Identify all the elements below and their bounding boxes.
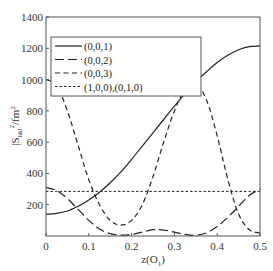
legend: (0,0,1)(0,0,2)(0,0,3)(1,0,0),(0,1,0)	[51, 37, 201, 96]
y-axis-title: |Shkl2/fm2	[8, 106, 24, 146]
x-tick-label: 0.5	[253, 240, 267, 252]
legend-label: (1,0,0),(0,1,0)	[84, 82, 143, 94]
series-line	[46, 188, 260, 236]
x-tick-label: 0	[43, 240, 49, 252]
legend-label: (0,0,3)	[84, 68, 112, 80]
y-axis: 200400600800100012001400	[21, 11, 49, 211]
y-tick-label: 600	[27, 136, 44, 148]
y-tick-label: 1000	[21, 74, 44, 86]
x-tick-label: 0.3	[168, 240, 182, 252]
x-tick-label: 0.2	[125, 240, 139, 252]
x-tick-label: 0.1	[82, 240, 96, 252]
chart: 200400600800100012001400 00.10.20.30.40.…	[0, 0, 273, 271]
y-tick-label: 200	[27, 199, 44, 211]
legend-label: (0,0,2)	[84, 55, 112, 67]
y-tick-label: 1400	[21, 11, 44, 23]
y-tick-label: 800	[27, 105, 44, 117]
legend-label: (0,0,1)	[84, 41, 112, 53]
x-tick-label: 0.4	[210, 240, 224, 252]
y-tick-label: 1200	[21, 42, 44, 54]
y-tick-label: 400	[27, 167, 44, 179]
x-axis-title: z(O1)	[141, 253, 165, 268]
